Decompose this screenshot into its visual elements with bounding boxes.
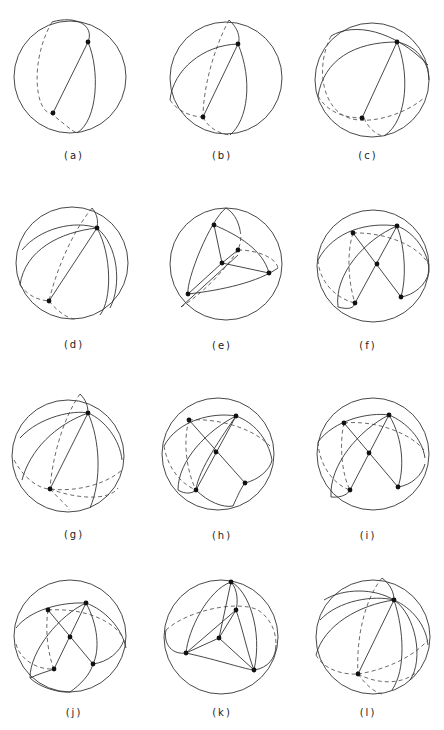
panel-c: (c) bbox=[294, 0, 442, 190]
sphere-diagram-b bbox=[148, 0, 296, 190]
sphere-diagram-a bbox=[0, 0, 148, 190]
panel-label: (l) bbox=[294, 707, 442, 718]
panel-label: (i) bbox=[294, 530, 442, 541]
panel-label: (f) bbox=[294, 340, 442, 351]
panel-label: (h) bbox=[148, 530, 296, 541]
panel-g: (g) bbox=[0, 380, 148, 570]
sphere-diagram-e bbox=[148, 190, 296, 380]
sphere-diagram-i bbox=[294, 380, 442, 570]
panel-j: (j) bbox=[0, 570, 148, 730]
sphere-diagram-d bbox=[0, 190, 148, 380]
panel-k: (k) bbox=[148, 570, 296, 730]
panel-label: (b) bbox=[148, 150, 296, 161]
panel-h: (h) bbox=[148, 380, 296, 570]
panel-i: (i) bbox=[294, 380, 442, 570]
panel-f: (f) bbox=[294, 190, 442, 380]
panel-e: (e) bbox=[148, 190, 296, 380]
sphere-diagram-c bbox=[294, 0, 442, 190]
panel-l: (l) bbox=[294, 570, 442, 730]
panel-label: (d) bbox=[0, 339, 148, 350]
panel-label: (c) bbox=[294, 150, 442, 161]
sphere-diagram-l bbox=[294, 570, 442, 730]
sphere-diagram-f bbox=[294, 190, 442, 380]
panel-label: (k) bbox=[148, 707, 296, 718]
panel-a: (a) bbox=[0, 0, 148, 190]
panel-label: (j) bbox=[0, 707, 148, 718]
sphere-diagram-k bbox=[148, 570, 296, 730]
panel-label: (g) bbox=[0, 529, 148, 540]
sphere-diagram-h bbox=[148, 380, 296, 570]
panel-d: (d) bbox=[0, 190, 148, 380]
panel-b: (b) bbox=[148, 0, 296, 190]
sphere-diagram-g bbox=[0, 380, 148, 570]
sphere-diagram-j bbox=[0, 570, 148, 730]
panel-label: (e) bbox=[148, 340, 296, 351]
panel-label: (a) bbox=[0, 150, 148, 161]
